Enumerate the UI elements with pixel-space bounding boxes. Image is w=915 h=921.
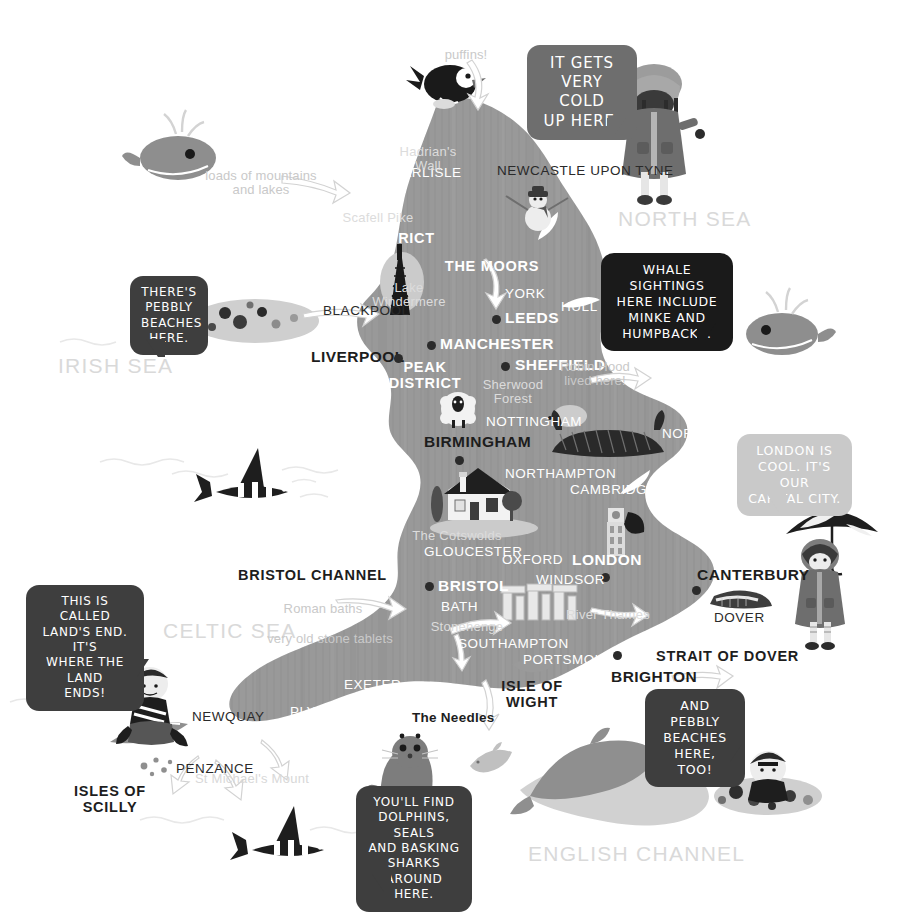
bubble-pebbly-beaches-here-tail: [146, 339, 165, 357]
speech-bubble-layer: IT GETS VERY COLD UP HERE.THERE'S PEBBLY…: [0, 0, 915, 921]
bubble-lands-end: THIS IS CALLED LAND'S END. IT'S WHERE TH…: [26, 585, 144, 711]
bubble-dolphins-seals-tail: [372, 874, 391, 892]
bubble-lands-end-tail: [130, 659, 149, 677]
illustrated-map-of-england: NORTH SEAIRISH SEACELTIC SEAENGLISH CHAN…: [0, 0, 915, 921]
bubble-pebbly-beaches-here: THERE'S PEBBLY BEACHES HERE.: [130, 276, 208, 355]
bubble-whale-sightings-tail: [697, 323, 716, 341]
bubble-london-capital: LONDON IS COOL. IT'S OUR CAPITAL CITY.: [737, 434, 852, 516]
bubble-pebbly-beaches-too: AND PEBBLY BEACHES HERE, TOO!: [645, 689, 745, 787]
bubble-london-capital-tail: [767, 494, 786, 512]
bubble-cold-up-here-tail: [607, 118, 626, 136]
bubble-dolphins-seals: YOU'LL FIND DOLPHINS, SEALS AND BASKING …: [356, 786, 472, 912]
bubble-pebbly-beaches-too-tail: [723, 744, 742, 762]
